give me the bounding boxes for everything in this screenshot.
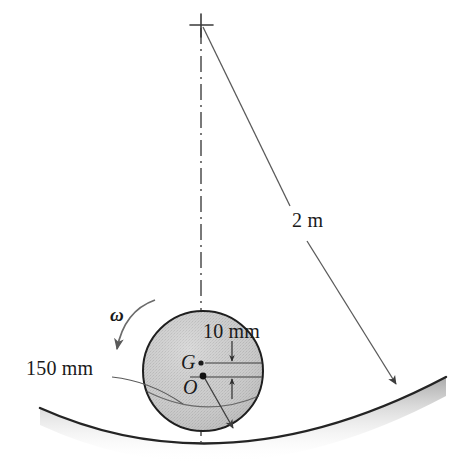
diagram-canvas <box>0 0 457 474</box>
point-marker-G <box>198 360 203 365</box>
label-angular-velocity: ω <box>110 305 124 324</box>
radius-leader-upper <box>203 27 290 206</box>
label-offset-distance: 10 mm <box>203 321 260 341</box>
label-surface-radius: 2 m <box>292 210 323 230</box>
engineering-diagram: 150 mm 10 mm 2 m G O ω <box>0 0 457 474</box>
label-cylinder-radius: 150 mm <box>26 358 93 378</box>
radius-leader-lower <box>307 241 396 384</box>
label-center-of-mass: G <box>181 352 195 372</box>
center-of-curvature-marker <box>190 14 213 37</box>
label-geometric-center: O <box>183 377 197 397</box>
point-marker-O <box>200 373 207 380</box>
